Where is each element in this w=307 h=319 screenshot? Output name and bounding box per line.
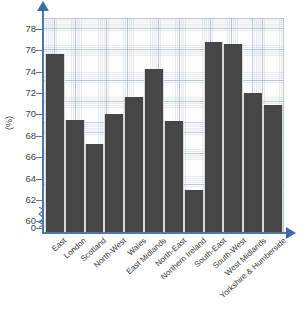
bar xyxy=(204,42,224,232)
y-tick-mark xyxy=(36,29,43,30)
y-tick-mark xyxy=(36,179,43,180)
bar xyxy=(104,114,124,232)
y-tick-mark xyxy=(36,221,43,222)
y-tick-label: 76 xyxy=(2,45,36,55)
y-tick-label: 74 xyxy=(2,67,36,77)
y-tick-mark xyxy=(36,50,43,51)
y-tick-label: 68 xyxy=(2,131,36,141)
bar xyxy=(263,105,283,232)
bar-series xyxy=(44,18,284,232)
x-axis-labels: EastLondonScotlandNorth-WestWalesEast Mi… xyxy=(44,236,284,319)
y-tick-label: 64 xyxy=(2,174,36,184)
x-axis-line xyxy=(42,232,288,234)
bar xyxy=(124,97,144,232)
y-tick-mark xyxy=(36,200,43,201)
y-tick-label: 62 xyxy=(2,195,36,205)
bar xyxy=(85,144,105,232)
bar xyxy=(223,44,243,232)
bar xyxy=(45,54,65,232)
y-axis-arrow-icon xyxy=(37,1,49,11)
y-tick-label: 72 xyxy=(2,88,36,98)
y-tick-mark xyxy=(36,93,43,94)
x-axis-arrow-icon xyxy=(286,227,296,239)
y-tick-label: 70 xyxy=(2,109,36,119)
y-tick-mark xyxy=(36,72,43,73)
y-tick-mark xyxy=(36,114,43,115)
y-tick-mark xyxy=(36,228,43,229)
bar xyxy=(243,93,263,232)
bar xyxy=(65,120,85,232)
y-tick-label: 78 xyxy=(2,24,36,34)
bar xyxy=(144,69,164,232)
bar xyxy=(164,121,184,232)
y-tick-mark xyxy=(36,157,43,158)
plot-area xyxy=(44,18,284,232)
y-tick-mark xyxy=(36,136,43,137)
y-tick-label: 66 xyxy=(2,152,36,162)
y-tick-label: 60 xyxy=(2,216,36,226)
bar-chart: (%) 060626466687072747678 EastLondonScot… xyxy=(0,0,307,319)
y-axis-labels: 060626466687072747678 xyxy=(0,0,36,319)
bar xyxy=(184,190,204,232)
